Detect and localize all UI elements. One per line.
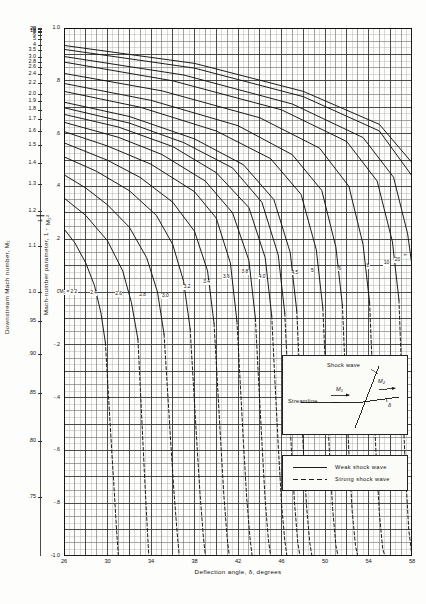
legend-strong-label: Strong shock wave [335,476,390,482]
x-tick-label: 42 [226,559,250,565]
mach-tick-mark [38,101,42,102]
x-axis-title: Deflection angle, δ, degrees [174,568,302,575]
mach-tick-mark [38,145,42,146]
x-tick-label: 50 [313,559,337,565]
curve-label: 2.6 [115,292,123,297]
parameter-tick-label: .6 [44,131,60,136]
mach-tick-label: .75 [14,494,36,499]
parameter-tick-label: .8 [44,78,60,83]
curve-label: ∞ [403,253,408,258]
mach-axis-title: Downstream Mach number, M₂ [3,240,10,334]
mach-tick-mark [38,354,42,355]
mach-tick-label: 1.6 [14,128,36,133]
mach-tick-label: 1.3 [14,181,36,186]
mach-tick-mark [38,94,42,95]
mach-tick-mark [38,131,42,132]
delta-label: δ [388,402,391,408]
mach-axis-title-symbol: M₂ [3,240,10,248]
mach-tick-label: 2.4 [14,71,36,76]
mach-tick-mark [38,211,42,212]
mach-tick-label: .80 [14,438,36,443]
curve-label: 4.5 [291,271,299,276]
mach-tick-label: 3.5 [14,47,36,52]
m1-label: M₁ [336,386,343,392]
mach-tick-label: 2.2 [14,80,36,85]
mach-tick-label: 1.4 [14,160,36,165]
curve-label: 8 [366,264,370,269]
parameter-axis-fraction: 1M₂² [36,215,52,226]
parameter-tick-label: -1.0 [44,553,60,558]
mach-tick-label: 1.5 [14,142,36,147]
mach-tick-label: .90 [14,351,36,356]
x-tick-label: 30 [96,559,120,565]
mach-tick-mark [38,110,42,111]
mach-tick-mark [38,321,42,322]
parameter-axis-title: Mach-number parameter, 1 - 1M₂² [36,215,52,315]
mach-tick-label: 1.7 [14,116,36,121]
legend-weak-label: Weak shock wave [335,464,387,470]
legend-box: Weak shock waveStrong shock wave [282,455,408,491]
curve-label: 3.6 [222,275,230,280]
legend-swatches [283,456,407,490]
mach-axis-title-text: Downstream Mach number, [3,250,10,334]
curve-label: 3.4 [203,280,211,285]
parameter-tick-label: -.6 [44,447,60,452]
parameter-tick-label: -.8 [44,500,60,505]
m2-label: M₂ [378,378,385,384]
mach-tick-mark [38,50,42,51]
mach-tick-mark [38,83,42,84]
x-tick-label: 54 [357,559,381,565]
mach-tick-mark [38,393,42,394]
mach-tick-mark [38,497,42,498]
x-tick-label: 34 [139,559,163,565]
shock-schematic-inset: Shock waveStreamlineM₁M₂δ [282,355,408,435]
mach-tick-mark [38,62,42,63]
curve-label: 6 [338,267,342,272]
curve-label: 2.4 [90,291,98,296]
curve-label: 3.2 [183,285,191,290]
parameter-tick-label: 1.0 [44,25,60,30]
curve-label: 4.0 [258,275,266,280]
mach-tick-label: .85 [14,390,36,395]
mach-tick-label: 1.8 [14,106,36,111]
mach-tick-mark [38,184,42,185]
mach-tick-mark [38,441,42,442]
figure-root: Downstream Mach number, M₂ ∞201086543.53… [0,0,426,604]
mach-tick-mark [38,32,42,33]
mach-tick-mark [38,35,42,36]
m2-arrowhead [392,386,396,390]
mach-tick-label: .95 [14,318,36,323]
curve-label: 3.0 [161,294,169,299]
m1-arrowhead [346,393,350,396]
streamline-label: Streamline [288,398,318,404]
mach-tick-label: 1.0 [14,289,36,294]
mach-tick-mark [38,29,42,30]
mach-tick-mark [38,57,42,58]
mach-tick-mark [38,67,42,68]
curve-label: 3.8 [241,270,249,275]
curve-label: 2.8 [139,293,147,298]
parameter-tick-label: -.2 [44,342,60,347]
mach-tick-mark [38,119,42,120]
parameter-tick-label: 0 [44,289,60,294]
curve-label: 20 [394,258,401,263]
curve-label: 5 [310,269,314,274]
mach-tick-mark [38,39,42,40]
mach-tick-label: 1.1 [14,243,36,248]
x-tick-label: 38 [183,559,207,565]
curve-label: 10 [383,261,390,266]
mach-tick-mark [38,74,42,75]
x-tick-label: 26 [52,559,76,565]
mach-tick-label: 1.9 [14,98,36,103]
parameter-tick-label: -.4 [44,395,60,400]
shock-wave-label: Shock wave [327,362,360,368]
streamline-deflected [363,397,399,402]
mach-tick-label: 1.2 [14,208,36,213]
mach-tick-label: 2.0 [14,91,36,96]
x-tick-label: 58 [400,559,424,565]
mach-tick-mark [38,45,42,46]
mach-tick-mark [38,163,42,164]
parameter-tick-label: .2 [44,236,60,241]
mach-tick-label: 2.6 [14,64,36,69]
x-tick-label: 46 [270,559,294,565]
